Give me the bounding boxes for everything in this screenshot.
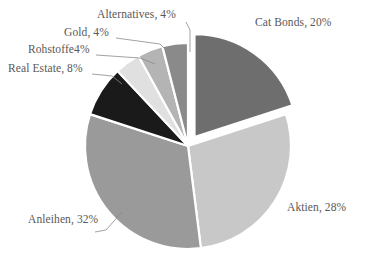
slice-label-real-estate: Real Estate, 8% — [8, 63, 83, 75]
slice-label-anleihen: Anleihen, 32% — [28, 214, 98, 226]
slice-label-alternatives: Alternatives, 4% — [97, 9, 176, 21]
pie-slices-group — [85, 34, 292, 249]
slice-label-cat-bonds: Cat Bonds, 20% — [255, 17, 331, 29]
pie-chart: Alternatives, 4% Gold, 4% Rohstoffe4% Re… — [0, 0, 377, 260]
slice-label-gold: Gold, 4% — [64, 27, 109, 39]
slice-label-aktien: Aktien, 28% — [287, 202, 346, 214]
slice-label-rohstoffe: Rohstoffe4% — [28, 44, 90, 56]
